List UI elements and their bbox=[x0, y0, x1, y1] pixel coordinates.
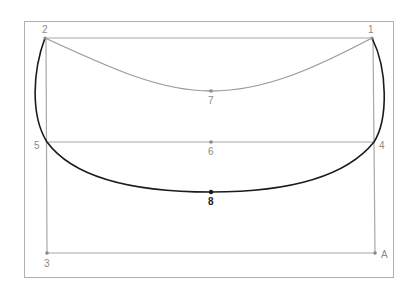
label-point-2: 2 bbox=[42, 24, 48, 35]
label-point-6: 6 bbox=[208, 146, 214, 157]
label-point-3: 3 bbox=[44, 258, 50, 269]
point-8-marker bbox=[209, 190, 213, 194]
line-1-A bbox=[373, 38, 375, 253]
line-2-3 bbox=[46, 38, 47, 253]
label-point-5: 5 bbox=[34, 140, 40, 151]
label-point-8: 8 bbox=[208, 196, 214, 207]
point-6-marker bbox=[209, 140, 213, 144]
diagram-canvas: 2 1 5 4 6 7 8 3 A bbox=[0, 0, 417, 293]
point-7-marker bbox=[209, 89, 213, 93]
upper-arc-2-7-1 bbox=[45, 38, 372, 91]
label-point-7: 7 bbox=[208, 95, 214, 106]
lower-loop-2-5-8-4-1 bbox=[35, 38, 384, 192]
label-point-1: 1 bbox=[368, 24, 374, 35]
point-1-marker bbox=[370, 36, 373, 39]
label-point-A: A bbox=[381, 249, 388, 260]
label-point-4: 4 bbox=[379, 140, 385, 151]
point-A-marker bbox=[373, 251, 377, 255]
point-3-marker bbox=[45, 251, 49, 255]
point-2-marker bbox=[43, 36, 46, 39]
